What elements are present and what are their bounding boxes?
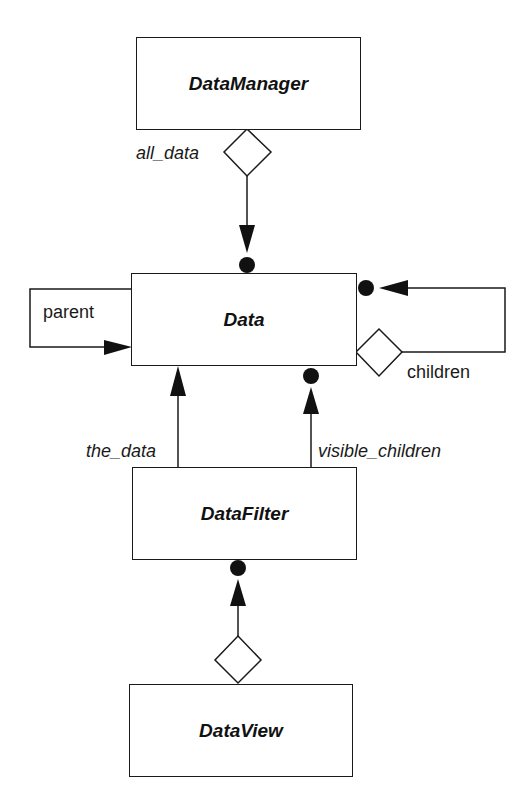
- aggregation-diamond-icon: [356, 329, 402, 376]
- aggregation-diamond-icon: [215, 636, 261, 683]
- class-name: Data: [223, 309, 264, 331]
- arrowhead-icon: [239, 225, 255, 253]
- class-box-dataview[interactable]: DataView: [129, 684, 353, 777]
- arrowhead-icon: [379, 280, 408, 296]
- many-dot-icon: [303, 368, 319, 384]
- arrowhead-icon: [170, 366, 186, 396]
- relation-label-parent: parent: [43, 302, 94, 323]
- class-name: DataView: [199, 720, 283, 742]
- class-box-data[interactable]: Data: [131, 273, 357, 366]
- aggregation-diamond-icon: [224, 129, 271, 176]
- class-name: DataFilter: [201, 503, 289, 525]
- relation-label-the-data: the_data: [86, 441, 156, 462]
- class-name: DataManager: [189, 73, 308, 95]
- many-dot-icon: [239, 257, 255, 273]
- class-box-datafilter[interactable]: DataFilter: [132, 467, 357, 560]
- relation-label-visible-children: visible_children: [318, 441, 441, 462]
- class-diagram: DataManager Data DataFilter DataView all…: [0, 0, 532, 803]
- relation-label-all-data: all_data: [136, 143, 199, 164]
- class-box-datamanager[interactable]: DataManager: [136, 37, 361, 130]
- arrowhead-icon: [230, 579, 246, 606]
- relation-label-children: children: [407, 362, 470, 383]
- many-dot-icon: [230, 560, 246, 576]
- arrowhead-icon: [104, 340, 132, 355]
- many-dot-icon: [358, 280, 374, 296]
- arrowhead-icon: [303, 387, 319, 414]
